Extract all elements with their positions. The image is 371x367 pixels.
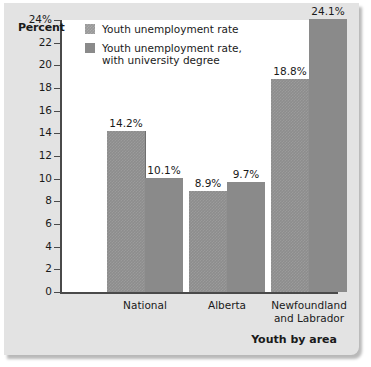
legend-label-line-2: with university degree (102, 54, 220, 66)
x-axis-category-label: Newfoundlandand Labrador (249, 299, 369, 325)
y-axis-tick-label: 6 (12, 217, 52, 229)
y-axis-tick (54, 224, 61, 225)
bar-value-label: 18.8% (265, 65, 315, 77)
y-axis-tick (54, 111, 61, 112)
y-axis-tick (54, 43, 61, 44)
chart-legend: Youth unemployment rate Youth unemployme… (85, 23, 242, 73)
bar (309, 19, 347, 292)
legend-swatch-icon (85, 43, 95, 53)
y-axis-tick (54, 201, 61, 202)
y-axis-tick-label: 0 (12, 285, 52, 297)
y-axis-tick (54, 65, 61, 66)
x-axis-line (60, 292, 338, 294)
y-axis-tick-label: 4 (12, 240, 52, 252)
legend-item-series-2: Youth unemployment rate, with university… (85, 42, 242, 67)
y-axis-tick-label: 14 (12, 126, 52, 138)
y-axis-tick (54, 179, 61, 180)
y-axis-tick-label: 18 (12, 81, 52, 93)
y-axis-tick-label: 22 (12, 36, 52, 48)
y-axis-tick (54, 20, 61, 21)
bar (271, 79, 310, 292)
y-axis-tick (54, 88, 61, 89)
y-axis-tick (54, 247, 61, 248)
y-axis-tick-label: 24% (12, 13, 52, 25)
y-axis-tick (54, 269, 61, 270)
bar-value-label: 9.7% (221, 168, 271, 180)
legend-label: Youth unemployment rate, with university… (102, 42, 242, 67)
y-axis-tick-label: 8 (12, 194, 52, 206)
chart-card: Percent 24%2220181614121086420 14.2%10.1… (4, 3, 359, 355)
legend-label: Youth unemployment rate (102, 23, 239, 36)
bar (227, 182, 265, 292)
x-axis-title: Youth by area (251, 333, 337, 346)
y-axis-tick (54, 292, 61, 293)
bar-value-label: 14.2% (101, 117, 151, 129)
y-axis-tick (54, 133, 61, 134)
y-axis-tick-label: 12 (12, 149, 52, 161)
legend-item-series-1: Youth unemployment rate (85, 23, 242, 36)
y-axis-tick-label: 20 (12, 58, 52, 70)
bar-value-label: 24.1% (303, 5, 353, 17)
bar (145, 178, 183, 292)
bar-value-label: 10.1% (139, 164, 189, 176)
legend-swatch-icon (85, 24, 95, 34)
bar (107, 131, 146, 292)
y-axis-tick-label: 10 (12, 172, 52, 184)
y-axis-tick (54, 156, 61, 157)
legend-label-line-1: Youth unemployment rate, (102, 42, 242, 54)
bar (189, 191, 228, 292)
y-axis-tick-label: 2 (12, 262, 52, 274)
y-axis-tick-label: 16 (12, 104, 52, 116)
